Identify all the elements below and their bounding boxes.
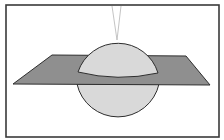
diagram-canvas [0, 0, 224, 140]
sphere-plane-diagram [0, 0, 224, 140]
